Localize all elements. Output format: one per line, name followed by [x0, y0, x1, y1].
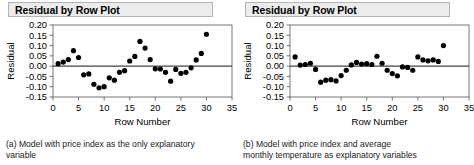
panel-b-xtick-label: 20 [387, 103, 397, 113]
panel-a-data-point [199, 51, 204, 56]
panel-a-xtick-label: 15 [125, 103, 135, 113]
panel-b-data-point [359, 61, 364, 66]
panel-a-data-point [188, 65, 193, 70]
panel-a: Residual by Row Plot 0.200.150.100.050.0… [0, 0, 237, 165]
panel-a-xtick-label: 25 [176, 103, 186, 113]
panel-a-ytick-label: 0.10 [29, 41, 47, 51]
panel-b-data-point [349, 62, 354, 67]
panel-b-ytick-label: 0.00 [266, 61, 284, 71]
panel-b-data-point [415, 54, 420, 59]
panel-a-data-point [194, 57, 199, 62]
panel-a-data-point [127, 58, 132, 63]
panel-a-plot: 0.200.150.100.050.00-0.05-0.10-0.1505101… [0, 18, 237, 130]
panel-b-data-point [431, 57, 436, 62]
panel-a-xtick-label: 5 [76, 103, 81, 113]
panel-a-data-point [66, 57, 71, 62]
panel-b-y-axis-title: Residual [242, 42, 253, 79]
panel-a-data-point [158, 66, 163, 71]
panel-a-ytick-label: -0.10 [26, 82, 47, 92]
panel-b-plot: 0.200.150.100.050.00-0.05-0.10-0.1505101… [237, 18, 474, 130]
panel-b-title: Residual by Row Plot [252, 4, 357, 17]
panel-b-data-point [405, 65, 410, 70]
panel-a-data-point [76, 55, 81, 60]
panel-b-data-point [395, 73, 400, 78]
panel-a-data-point [86, 71, 91, 76]
panel-a-xtick-label: 20 [150, 103, 160, 113]
panel-b-data-point [369, 62, 374, 67]
panel-b-data-point [364, 61, 369, 66]
panel-a-data-point [56, 61, 61, 66]
panel-b-data-point [303, 62, 308, 67]
panel-b-data-point [400, 64, 405, 69]
panel-a-ytick-label: 0.20 [29, 20, 47, 30]
panel-b-data-point [298, 63, 303, 68]
panel-b-ytick-label: 0.20 [266, 20, 284, 30]
panel-a-xtick-label: 0 [50, 103, 55, 113]
panel-b-data-point [385, 68, 390, 73]
panel-a-ytick-label: 0.15 [29, 31, 47, 41]
panel-a-title: Residual by Row Plot [15, 4, 120, 17]
panel-a-data-point [153, 66, 158, 71]
panel-b-data-point [313, 67, 318, 72]
panel-a-xtick-label: 10 [99, 103, 109, 113]
panel-b-data-point [318, 80, 323, 85]
panel-b-caption-line2: monthly temperature as explanatory varia… [243, 150, 417, 160]
panel-a-data-point [71, 48, 76, 53]
panel-b-data-point [293, 54, 298, 59]
panel-a-data-point [122, 68, 127, 73]
panel-b-data-point [425, 58, 430, 63]
panel-a-data-point [204, 32, 209, 37]
panel-b-data-point [354, 60, 359, 65]
panel-b: Residual by Row Plot 0.200.150.100.050.0… [237, 0, 474, 165]
residual-plot-figure: Residual by Row Plot 0.200.150.100.050.0… [0, 0, 474, 165]
panel-b-data-point [333, 78, 338, 83]
panel-b-xtick-label: 35 [464, 103, 474, 113]
panel-a-x-axis-title: Row Number [115, 116, 172, 127]
panel-b-data-point [436, 59, 441, 64]
panel-b-data-point [441, 43, 446, 48]
panel-b-ytick-label: 0.05 [266, 51, 284, 61]
panel-b-data-point [328, 77, 333, 82]
panel-b-data-point [308, 61, 313, 66]
panel-b-data-point [420, 57, 425, 62]
panel-b-data-point [379, 61, 384, 66]
panel-b-x-axis-title: Row Number [352, 116, 409, 127]
panel-a-data-point [137, 39, 142, 44]
panel-b-caption: (b) Model with price index and average m… [243, 139, 471, 160]
panel-b-title-bar: Residual by Row Plot [245, 2, 450, 17]
panel-b-caption-line1: (b) Model with price index and average [243, 139, 391, 149]
panel-b-xtick-label: 0 [287, 103, 292, 113]
panel-a-ytick-label: 0.05 [29, 51, 47, 61]
panel-b-data-point [374, 54, 379, 59]
panel-b-xtick-label: 10 [336, 103, 346, 113]
panel-b-data-point [410, 68, 415, 73]
panel-a-scatter-svg: 0.200.150.100.050.00-0.05-0.10-0.1505101… [0, 18, 237, 130]
panel-a-y-axis-title: Residual [5, 42, 16, 79]
panel-a-ytick-label: 0.00 [29, 61, 47, 71]
panel-a-data-point [173, 67, 178, 72]
panel-a-data-point [96, 85, 101, 90]
panel-b-ytick-label: -0.05 [263, 72, 284, 82]
panel-b-data-point [339, 73, 344, 78]
panel-a-data-point [163, 70, 168, 75]
panel-b-xtick-label: 30 [438, 103, 448, 113]
panel-a-title-bar: Residual by Row Plot [8, 2, 213, 17]
panel-a-caption: (a) Model with price index as the only e… [6, 139, 234, 160]
panel-a-data-point [91, 82, 96, 87]
panel-a-data-point [107, 75, 112, 80]
panel-a-ytick-label: -0.15 [26, 92, 47, 102]
panel-a-xtick-label: 35 [227, 103, 237, 113]
panel-b-ytick-label: -0.15 [263, 92, 284, 102]
panel-a-data-point [148, 57, 153, 62]
panel-b-data-point [390, 71, 395, 76]
panel-a-caption-line2: variable [6, 150, 36, 160]
panel-a-data-point [132, 54, 137, 59]
panel-b-xtick-label: 25 [413, 103, 423, 113]
panel-b-plot-frame [290, 25, 469, 97]
panel-a-data-point [183, 70, 188, 75]
panel-b-ytick-label: -0.10 [263, 82, 284, 92]
panel-a-xtick-label: 30 [201, 103, 211, 113]
panel-b-xtick-label: 5 [313, 103, 318, 113]
panel-a-data-point [117, 70, 122, 75]
panel-a-ytick-label: -0.05 [26, 72, 47, 82]
